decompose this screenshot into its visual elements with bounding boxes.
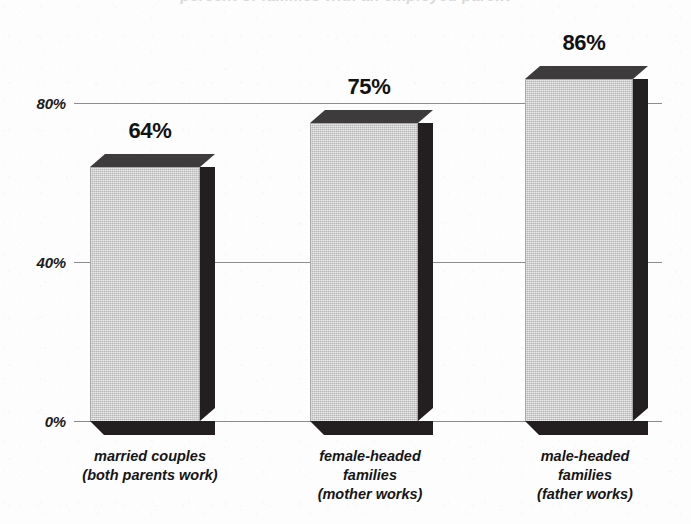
bar-front-face (90, 167, 200, 421)
bar-female-headed-families[interactable] (310, 123, 418, 421)
bar-side-face (418, 123, 433, 421)
bar-married-couples[interactable] (90, 167, 200, 421)
ytick-label-40: 40% (0, 254, 66, 271)
value-label-female-headed-families: 75% (315, 74, 423, 100)
plot-area: 80% 40% 0% 64% 75% 86% married (0, 0, 691, 524)
ytick-label-80: 80% (0, 95, 66, 112)
bar-front-face (525, 79, 633, 421)
category-label-line: families (285, 466, 455, 485)
category-label-line: female-headed (285, 447, 455, 466)
category-label-line: (father works) (500, 485, 670, 504)
category-label-line: families (500, 466, 670, 485)
category-label-line: married couples (45, 447, 255, 466)
bar-top-face (310, 110, 433, 123)
bar-bottom-face (310, 421, 433, 435)
bar-top-face (525, 66, 648, 79)
bar-bottom-face (525, 421, 648, 435)
bar-male-headed-families[interactable] (525, 79, 633, 421)
bar-side-face (200, 167, 215, 421)
bar-side-face (633, 79, 648, 421)
cropped-title-sliver: percent of families with an employed par… (0, 0, 691, 9)
category-label-married-couples: married couples (both parents work) (45, 447, 255, 485)
bar-front-face (310, 123, 418, 421)
bar-chart: percent of families with an employed par… (0, 0, 691, 524)
bar-top-face (90, 154, 215, 167)
value-label-married-couples: 64% (95, 118, 205, 144)
bar-bottom-face (90, 421, 215, 435)
category-label-female-headed-families: female-headed families (mother works) (285, 447, 455, 504)
category-label-line: (mother works) (285, 485, 455, 504)
category-label-male-headed-families: male-headed families (father works) (500, 447, 670, 504)
ytick-label-0: 0% (0, 413, 66, 430)
category-label-line: male-headed (500, 447, 670, 466)
cropped-title-text: percent of families with an employed par… (0, 0, 691, 4)
category-label-line: (both parents work) (45, 466, 255, 485)
value-label-male-headed-families: 86% (530, 30, 638, 56)
